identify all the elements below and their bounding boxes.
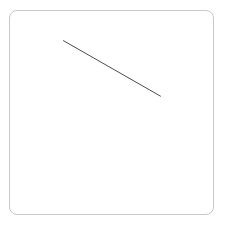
diagonal-line-stroke[interactable] xyxy=(63,41,160,96)
stroke-layer xyxy=(63,41,160,96)
app-root: Drawing Canvas xyxy=(0,0,227,227)
drawing-canvas-panel[interactable] xyxy=(9,10,214,215)
drawing-surface[interactable] xyxy=(10,11,213,214)
